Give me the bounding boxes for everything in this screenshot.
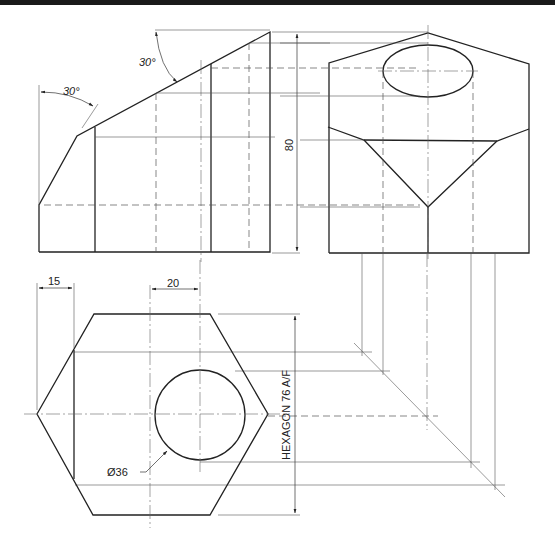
angle-label-left: 30° [63, 85, 80, 97]
height-label: 80 [283, 139, 295, 151]
dimension-label-15: 15 [48, 275, 60, 287]
front-view [39, 32, 420, 262]
engineering-drawing: 30° 30° 80 [0, 0, 555, 546]
dimension-15: 15 [37, 275, 74, 410]
angle-dimension-left: 30° [39, 85, 98, 205]
dimension-label-20: 20 [167, 277, 179, 289]
hexagon-label: HEXAGON 76 A/F [280, 370, 292, 460]
dimension-20: 20 [152, 277, 198, 289]
diameter-label: Ø36 [107, 466, 128, 478]
diameter-dimension: Ø36 [107, 451, 167, 478]
plan-view [24, 260, 290, 528]
angle-label-upper: 30° [139, 56, 156, 68]
side-view [280, 25, 529, 260]
angle-dimension-upper: 30° [139, 30, 270, 82]
height-dimension: 80 [272, 32, 428, 253]
